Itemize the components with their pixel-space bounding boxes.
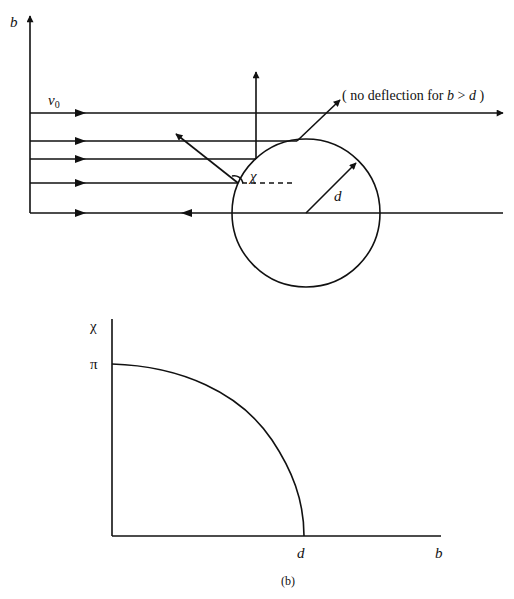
radius-label: d (334, 188, 342, 204)
angle-label: χ (248, 168, 257, 184)
arrowhead-icon (75, 155, 86, 163)
velocity-label: v0 (48, 92, 60, 110)
panel-a-labels: b v0 χ d ( no deflection for b > d ) (10, 14, 484, 204)
chi-vs-b-curve (112, 364, 304, 536)
panel-a (30, 16, 503, 287)
radius-arrow (306, 163, 356, 213)
figure-caption: (b) (281, 574, 295, 588)
arrowhead-icon (75, 109, 86, 117)
arrowhead-icon (75, 209, 86, 217)
hard-sphere-scattering-diagram: b v0 χ d ( no deflection for b > d ) χ π… (0, 0, 514, 599)
d-tick-label: d (297, 545, 305, 561)
arrowhead-icon (75, 137, 86, 145)
pi-tick-label: π (90, 356, 98, 372)
backscatter-arrowhead-icon (181, 209, 192, 217)
chi-axis-label: χ (89, 318, 97, 334)
arrowhead-icon (75, 179, 86, 187)
b-axis-label-bottom: b (435, 545, 443, 561)
panel-b (112, 319, 441, 536)
panel-b-labels: χ π d b (b) (89, 318, 443, 588)
b-axis-label: b (10, 14, 18, 30)
no-deflection-annotation: ( no deflection for b > d ) (342, 88, 484, 104)
deflected-upper-right (297, 100, 340, 141)
